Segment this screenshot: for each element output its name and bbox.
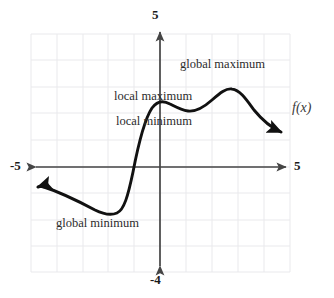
- annotation-global-minimum: global minimum: [56, 216, 139, 231]
- annotation-global-maximum: global maximum: [180, 57, 265, 72]
- axis-label-bottom: -4: [150, 272, 161, 288]
- axis-label-right: 5: [294, 158, 301, 174]
- function-label: f(x): [292, 100, 311, 116]
- axis-label-left: -5: [10, 158, 21, 174]
- plot-canvas: [0, 0, 334, 298]
- function-graph-figure: 5 -4 -5 5 f(x) global maximum local maxi…: [0, 0, 334, 298]
- function-curve: [41, 89, 281, 215]
- axis-label-top: 5: [152, 7, 159, 23]
- annotation-local-minimum: local minimum: [116, 114, 192, 129]
- annotation-local-maximum: local maximum: [114, 89, 192, 104]
